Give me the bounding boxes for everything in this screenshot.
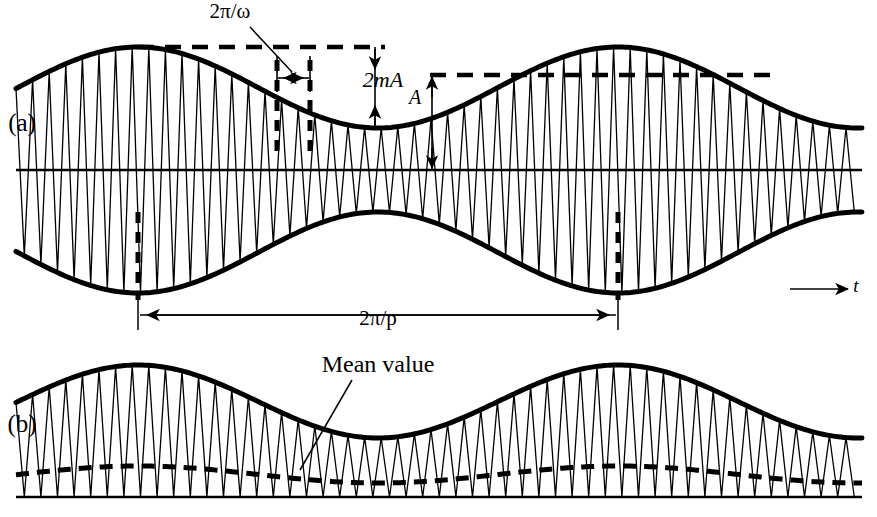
modulation-depth-label: 2mA: [363, 67, 404, 92]
time-axis-label: t: [853, 275, 859, 296]
carrier-period-label: 2π/ω: [210, 0, 251, 23]
upper-envelope-curve: [16, 47, 862, 128]
panel-b-label: (b): [7, 410, 36, 438]
amplitude-modulation-figure: (a) (b) 2π/ω 2mA A 2π/p Mean value t: [0, 0, 877, 517]
amplitude-label: A: [407, 86, 422, 108]
rectified-envelope-curve: [16, 365, 862, 438]
panel-a-label: (a): [8, 109, 36, 137]
panel-a: [16, 27, 862, 330]
panel-b: [16, 365, 862, 497]
modulation-period-label: 2π/p: [359, 306, 396, 330]
carrier-period-leader-line: [250, 27, 292, 72]
rectified-carrier-waveform: [16, 365, 854, 497]
mean-value-label: Mean value: [322, 351, 435, 377]
